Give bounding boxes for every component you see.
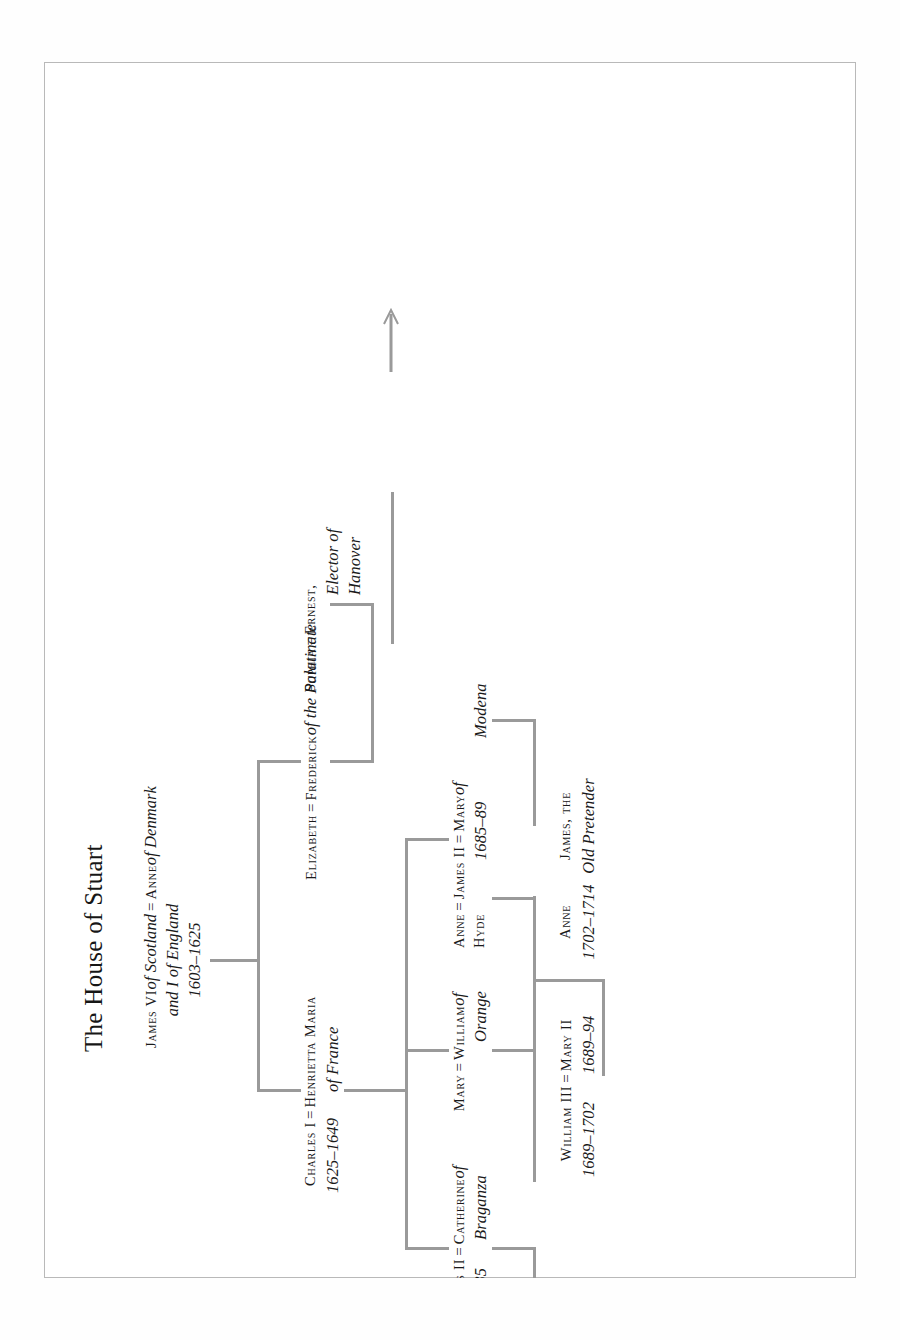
james-vi-reign: 1603–1625: [184, 838, 205, 1082]
ernest-line3: Hanover: [344, 537, 365, 595]
anne-denmark-name: Anne: [143, 865, 159, 899]
node-james-vi: James VIof Scotland=Anneof Denmark: [140, 752, 162, 1082]
james-ii-reign: 1685–89: [470, 802, 491, 860]
node-william-iii: William III=Mary II: [556, 958, 577, 1222]
frederick-name: Frederick: [303, 735, 319, 800]
connector-to-charles2: [405, 1247, 449, 1250]
node-charles-i: Charles I=Henrietta Maria: [300, 960, 321, 1222]
anne-denmark-suffix: of Denmark: [141, 786, 160, 865]
anne-hyde-name: Anne: [451, 914, 467, 948]
ernest-name: Ernest,: [302, 584, 318, 634]
catherine-suffix: of: [449, 1165, 468, 1178]
connector-to-william3: [533, 1050, 536, 1182]
connector-charles1-stem: [344, 1089, 408, 1092]
james-vi-line2: and I of England: [162, 838, 183, 1082]
equals-sign: =: [558, 1071, 574, 1085]
henrietta-maria-name: Henrietta Maria: [302, 996, 318, 1107]
connector-to-james2: [405, 838, 449, 841]
connector-to-monmouth: [533, 1248, 536, 1278]
node-mary-orange: Mary=Williamof: [448, 950, 470, 1154]
james-vi-name: James VI: [143, 990, 159, 1048]
equals-sign: =: [451, 899, 467, 913]
mary-modena-line2: Modena: [470, 683, 491, 738]
node-james-ii: Anne=James II=Maryof: [448, 648, 470, 948]
mary-ii-name: Mary II: [558, 1019, 574, 1071]
connector-to-mary: [405, 1049, 449, 1052]
connector-hanoverian-lead: [391, 492, 394, 644]
anne-hyde-line2: Hyde: [470, 914, 489, 948]
mary-modena-suffix: of: [449, 782, 468, 795]
william-iii-name: William III: [558, 1086, 574, 1162]
connector-g1-sibling-bar: [257, 760, 260, 1092]
charles-i-reign: 1625–1649: [322, 1118, 343, 1222]
sophia-name: Sophia: [302, 649, 318, 692]
connector-mary-ii-link: [602, 980, 605, 1076]
mary-modena-name: Mary: [451, 795, 467, 832]
elizabeth-name: Elizabeth: [303, 815, 319, 880]
connector-to-old-pretender: [533, 720, 536, 826]
equals-sign: =: [302, 634, 318, 648]
charles-i-name: Charles I: [302, 1122, 318, 1186]
equals-sign: =: [451, 832, 467, 846]
connector-charles2-stem: [492, 1247, 536, 1250]
connector-elizabeth-to-sophia: [371, 603, 374, 763]
connector-charles1-children-bar: [405, 838, 408, 1250]
mary-name: Mary: [451, 1075, 467, 1112]
james-ii-name: James II: [451, 846, 467, 899]
ernest-line2: Elector of: [322, 529, 343, 595]
equals-sign: =: [143, 899, 159, 913]
connector-mary-stem: [492, 1049, 536, 1052]
node-sophia: Sophia=Ernest,: [300, 584, 321, 692]
genealogy-chart: The House of Stuart James VIof Scotland=…: [44, 62, 856, 1278]
equals-sign: =: [302, 1107, 318, 1121]
connector-to-charles1: [257, 1089, 301, 1092]
connector-hyde-children-bar: [533, 896, 536, 1052]
william-iii-reign: 1689–1702: [578, 1102, 599, 1222]
anne-queen-reign: 1702–1714: [578, 852, 599, 992]
connector-g1-stem: [210, 959, 260, 962]
catherine-name: Catherine: [451, 1178, 467, 1244]
anne-queen-name: Anne: [556, 862, 575, 982]
connector-to-elizabeth: [257, 760, 301, 763]
connector-james2-hyde-stem: [492, 897, 536, 900]
connector-james2-modena-stem: [492, 719, 536, 722]
equals-sign: =: [451, 1244, 467, 1258]
chart-title: The House of Stuart: [80, 844, 108, 1052]
mary-ii-reign: 1689–94: [578, 1016, 599, 1074]
william-orange-suffix: of: [449, 993, 468, 1006]
hanoverian-arrow-icon: [382, 302, 404, 372]
equals-sign: =: [451, 1060, 467, 1074]
james-vi-suffix: of Scotland: [141, 914, 160, 990]
page-canvas: The House of Stuart James VIof Scotland=…: [0, 0, 900, 1340]
william-orange-name: William: [451, 1006, 467, 1060]
william-orange-line2: Orange: [470, 991, 491, 1042]
equals-sign: =: [303, 801, 319, 815]
catherine-line2: Braganza: [470, 1175, 491, 1240]
connector-elizabeth-stem: [330, 760, 374, 763]
connector-sophia-riser: [330, 603, 374, 606]
charles-ii-reign: 1660–1685: [470, 1268, 491, 1278]
charles-ii-name: Charles II: [451, 1259, 467, 1278]
henrietta-maria-line2: of France: [322, 952, 343, 1092]
chart-rotation-wrapper: The House of Stuart James VIof Scotland=…: [44, 62, 856, 1278]
